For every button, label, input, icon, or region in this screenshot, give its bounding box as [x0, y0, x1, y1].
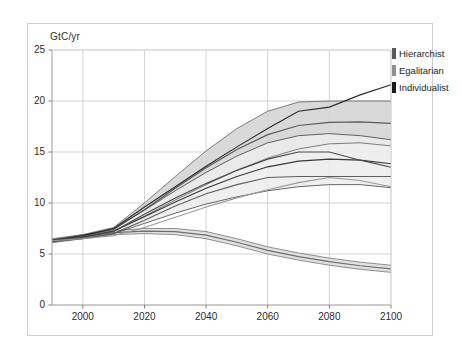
y-tick-15: 15 — [19, 146, 45, 157]
y-tick-20: 20 — [19, 95, 45, 106]
y-tick-10: 10 — [19, 197, 45, 208]
legend-swatch-individualist — [392, 82, 396, 93]
y-tick-0: 0 — [19, 299, 45, 310]
x-tick-2000: 2000 — [63, 311, 103, 322]
legend-label-individualist: Individualist — [399, 82, 449, 93]
x-tick-2040: 2040 — [186, 311, 226, 322]
x-tick-2080: 2080 — [309, 311, 349, 322]
legend-label-egalitarian: Egalitarian — [399, 65, 444, 76]
legend-item-individualist[interactable]: Individualist — [392, 80, 449, 95]
legend-item-egalitarian[interactable]: Egalitarian — [392, 63, 449, 78]
x-tick-2020: 2020 — [124, 311, 164, 322]
legend-label-hierarchist: Hierarchist — [399, 48, 444, 59]
y-tick-5: 5 — [19, 248, 45, 259]
x-tick-2100: 2100 — [371, 311, 411, 322]
chart-legend: Hierarchist Egalitarian Individualist — [392, 46, 449, 97]
legend-swatch-egalitarian — [392, 65, 396, 76]
y-tick-25: 25 — [19, 44, 45, 55]
series-bands — [52, 101, 391, 272]
figure-container: GtC/yr 0510152025 2000202020402060208021… — [0, 0, 462, 363]
legend-item-hierarchist[interactable]: Hierarchist — [392, 46, 449, 61]
x-tick-2060: 2060 — [248, 311, 288, 322]
legend-swatch-hierarchist — [392, 48, 396, 59]
